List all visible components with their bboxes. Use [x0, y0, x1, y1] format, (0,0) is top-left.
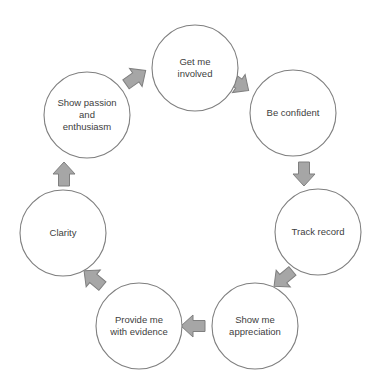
node-track-record-label: Track record	[292, 226, 345, 237]
node-get-me-involved[interactable]: Get meinvolved	[152, 25, 238, 111]
node-show-passion-and-enthusiasm-label-line: and	[79, 109, 95, 120]
node-track-record-label-line: Track record	[292, 226, 345, 237]
node-show-me-appreciation-label-line: appreciation	[229, 326, 281, 337]
node-show-passion-and-enthusiasm-label-line: Show passion	[57, 97, 116, 108]
arrow-confident-to-track-icon	[293, 162, 315, 186]
arrow-clarity-to-passion-icon	[53, 162, 75, 186]
node-be-confident[interactable]: Be confident	[250, 70, 336, 156]
node-clarity-label: Clarity	[50, 227, 77, 238]
node-provide-me-with-evidence-label-line: Provide me	[115, 314, 163, 325]
node-get-me-involved-label-line: involved	[178, 68, 213, 79]
node-clarity[interactable]: Clarity	[20, 190, 106, 276]
node-show-me-appreciation-label-line: Show me	[235, 314, 275, 325]
arrow-appreciation-to-evidence-icon	[181, 315, 205, 337]
arrow-passion-to-involved-icon	[120, 62, 152, 94]
cycle-diagram: Get meinvolvedBe confidentTrack recordSh…	[0, 0, 377, 388]
node-clarity-label-line: Clarity	[50, 227, 77, 238]
node-get-me-involved-label-line: Get me	[179, 56, 210, 67]
node-show-me-appreciation-label: Show meappreciation	[229, 314, 281, 337]
node-provide-me-with-evidence[interactable]: Provide mewith evidence	[96, 283, 182, 369]
node-provide-me-with-evidence-label: Provide mewith evidence	[109, 314, 168, 337]
cycle-diagram-canvas: Get meinvolvedBe confidentTrack recordSh…	[0, 0, 377, 388]
node-get-me-involved-label: Get meinvolved	[178, 56, 213, 79]
node-be-confident-label: Be confident	[267, 107, 320, 118]
node-track-record[interactable]: Track record	[275, 189, 361, 275]
node-show-me-appreciation[interactable]: Show meappreciation	[212, 283, 298, 369]
node-provide-me-with-evidence-label-line: with evidence	[109, 326, 168, 337]
node-show-passion-and-enthusiasm[interactable]: Show passionandenthusiasm	[44, 72, 130, 158]
node-be-confident-label-line: Be confident	[267, 107, 320, 118]
node-show-passion-and-enthusiasm-label-line: enthusiasm	[63, 121, 112, 132]
